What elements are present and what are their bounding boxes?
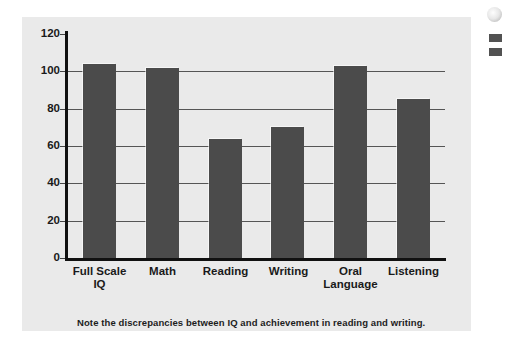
x-axis-tick-label: Math (131, 265, 194, 278)
y-axis-tick-label: 80 (26, 103, 60, 115)
figure-panel: 120100806040200 Full ScaleIQMathReadingW… (22, 17, 471, 331)
x-axis-tick-label-line: Full Scale (68, 265, 131, 278)
margin-circle-icon (487, 7, 502, 22)
x-axis-tick-label-line: Math (131, 265, 194, 278)
y-axis-tick-labels: 120100806040200 (22, 17, 60, 331)
bar (397, 99, 430, 258)
bar (209, 139, 242, 258)
y-axis-tick-label: 100 (26, 65, 60, 77)
bar (334, 66, 367, 258)
x-axis-tick-label-line: Reading (194, 265, 257, 278)
x-axis-tick-labels: Full ScaleIQMathReadingWritingOralLangua… (68, 265, 445, 309)
bar (146, 68, 179, 258)
y-axis-tick-label: 60 (26, 140, 60, 152)
x-axis-tick-label-line: Language (319, 278, 382, 291)
x-axis-tick-label: Listening (382, 265, 445, 278)
x-axis-tick-label-line: Listening (382, 265, 445, 278)
margin-rule-mark-1 (489, 34, 502, 42)
x-axis-tick-label-line: Writing (257, 265, 320, 278)
x-axis-tick-label: OralLanguage (319, 265, 382, 291)
bars-group (68, 34, 445, 258)
bar-chart: 120100806040200 Full ScaleIQMathReadingW… (22, 17, 471, 331)
figure-caption: Note the discrepancies between IQ and ac… (77, 317, 457, 329)
bar (271, 127, 304, 258)
x-axis-tick-label-line: Oral (319, 265, 382, 278)
x-axis-tick-label-line: IQ (68, 278, 131, 291)
x-axis-tick-label: Writing (257, 265, 320, 278)
x-axis-line (65, 258, 446, 261)
x-axis-tick-label: Full ScaleIQ (68, 265, 131, 291)
x-axis-tick-label: Reading (194, 265, 257, 278)
y-axis-tick-label: 0 (26, 252, 60, 264)
y-axis-tick-label: 20 (26, 215, 60, 227)
y-axis-tick-label: 40 (26, 177, 60, 189)
margin-rule-mark-2 (489, 48, 502, 56)
y-axis-tick-label: 120 (26, 28, 60, 40)
bar (83, 64, 116, 258)
